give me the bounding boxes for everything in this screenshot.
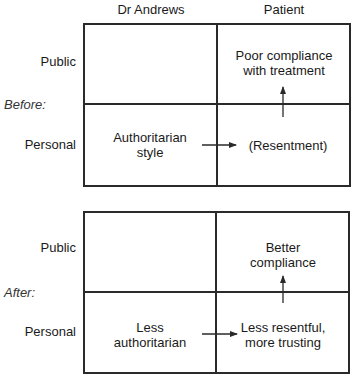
arrows-layer bbox=[0, 0, 357, 383]
